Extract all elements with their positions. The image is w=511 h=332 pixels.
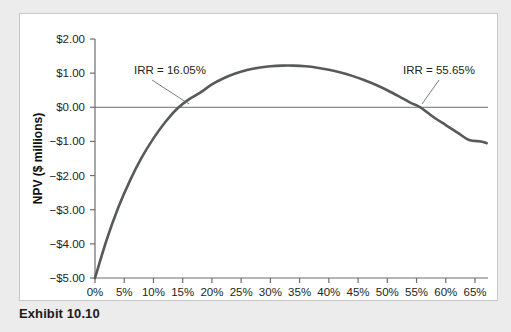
npv-curve: [95, 66, 487, 278]
x-axis-tick-label: 40%: [317, 286, 340, 298]
y-axis-tick-label: −$3.00: [50, 204, 86, 216]
x-axis-tick-label: 5%: [116, 286, 133, 298]
y-axis-tick-label: $1.00: [56, 67, 85, 79]
exhibit-caption: Exhibit 10.10: [19, 306, 100, 321]
x-axis-tick-label: 45%: [347, 286, 370, 298]
x-axis-tick-label: 50%: [376, 286, 399, 298]
x-axis-ticks: [95, 278, 475, 283]
y-axis-tick-label: −$2.00: [50, 170, 86, 182]
y-axis-tick-labels: $2.00$1.00$0.00−$1.00−$2.00−$3.00−$4.00−…: [50, 33, 86, 284]
y-axis-tick-label: $2.00: [56, 33, 85, 45]
x-axis-tick-label: 30%: [259, 286, 282, 298]
y-axis-tick-label: −$1.00: [50, 135, 86, 147]
x-axis-tick-label: 20%: [200, 286, 223, 298]
x-axis-tick-label: 25%: [230, 286, 253, 298]
x-axis-tick-label: 65%: [463, 286, 486, 298]
irr-annotation-label: IRR = 16.05%: [134, 64, 206, 76]
y-axis-tick-label: $0.00: [56, 101, 85, 113]
x-axis-tick-label: 35%: [288, 286, 311, 298]
irr-annotations: IRR = 16.05%IRR = 55.65%: [134, 64, 475, 104]
npv-profile-chart: $2.00$1.00$0.00−$1.00−$2.00−$3.00−$4.00−…: [20, 14, 497, 300]
x-axis-tick-label: 60%: [434, 286, 457, 298]
y-axis-title: NPV ($ millions): [31, 113, 45, 204]
x-axis-tick-labels: 0%5%10%15%20%25%30%35%40%45%50%55%60%65%: [87, 286, 487, 298]
irr-annotation-leader-line: [152, 80, 189, 104]
x-axis-tick-label: 15%: [171, 286, 194, 298]
y-axis-tick-label: −$5.00: [50, 272, 86, 284]
x-axis-tick-label: 55%: [405, 286, 428, 298]
exhibit-figure: $2.00$1.00$0.00−$1.00−$2.00−$3.00−$4.00−…: [0, 0, 511, 332]
irr-annotation-label: IRR = 55.65%: [403, 64, 475, 76]
chart-panel: $2.00$1.00$0.00−$1.00−$2.00−$3.00−$4.00−…: [19, 13, 498, 301]
x-axis-tick-label: 0%: [87, 286, 104, 298]
y-axis-ticks: [90, 39, 95, 278]
y-axis-tick-label: −$4.00: [50, 238, 86, 250]
x-axis-tick-label: 10%: [142, 286, 165, 298]
irr-annotation-leader-line: [422, 80, 439, 104]
